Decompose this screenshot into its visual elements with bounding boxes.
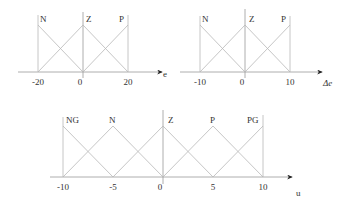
tick-label: -10	[194, 77, 206, 87]
set-label: P	[119, 14, 124, 24]
tick-label: 5	[211, 182, 216, 192]
tick-label: 0	[158, 182, 163, 192]
set-label: P	[210, 115, 215, 125]
tick-label: 10	[286, 77, 296, 87]
diagram-e: N Z P -20 0 20 e	[18, 12, 167, 87]
set-label: Z	[168, 115, 174, 125]
set-label: PG	[247, 115, 259, 125]
set-label: N	[40, 14, 47, 24]
axis-label: e	[163, 69, 167, 79]
tick-label: 20	[124, 77, 134, 87]
tick-label: -20	[32, 77, 44, 87]
tick-label: -5	[109, 182, 117, 192]
set-label: N	[109, 115, 116, 125]
tick-label: 0	[240, 77, 245, 87]
diagram-de: N Z P -10 0 10 Δe	[180, 9, 332, 88]
figure-canvas: N Z P -20 0 20 e N Z P -10 0 10 Δe	[0, 0, 346, 204]
set-label: P	[281, 14, 286, 24]
set-label: NG	[66, 115, 79, 125]
axis-label: Δe	[322, 78, 332, 88]
tick-label: 10	[259, 182, 269, 192]
tick-label: 0	[78, 77, 83, 87]
set-label: Z	[249, 14, 255, 24]
membership-functions-figure: N Z P -20 0 20 e N Z P -10 0 10 Δe	[0, 0, 346, 204]
tick-label: -10	[57, 182, 69, 192]
set-label: Z	[86, 14, 92, 24]
diagram-u: NG N Z P PG -10 -5 0 5 10 u	[50, 110, 301, 198]
mf-P-u	[163, 126, 263, 177]
axis-label: u	[296, 188, 301, 198]
mf-N-u	[63, 126, 163, 177]
set-label: N	[202, 14, 209, 24]
